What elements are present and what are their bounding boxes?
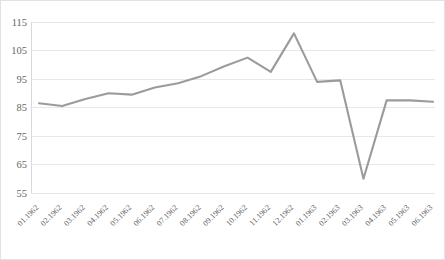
x-tick-label: 12.1962 (271, 203, 296, 228)
y-tick-label: 85 (17, 102, 28, 113)
line-chart-card: 5565758595105115 01.196202.196203.196204… (0, 0, 445, 260)
y-tick-label: 55 (17, 188, 28, 199)
x-tick-label: 11.1962 (248, 203, 273, 228)
x-tick-label: 04.1962 (85, 203, 110, 228)
x-tick-label: 06.1963 (410, 203, 435, 228)
x-tick-label: 06.1962 (132, 203, 157, 228)
x-tick-label: 09.1962 (201, 203, 226, 228)
x-tick-label: 05.1963 (386, 203, 411, 228)
y-tick-label: 75 (17, 131, 28, 142)
x-tick-label: 03.1963 (340, 203, 365, 228)
x-tick-label: 07.1962 (155, 203, 180, 228)
x-tick-label: 02.1962 (39, 203, 64, 228)
y-tick-label: 95 (17, 74, 28, 85)
series-line (39, 33, 433, 178)
x-tick-label: 08.1962 (178, 203, 203, 228)
data-series (39, 33, 433, 178)
x-tick-label: 01.1962 (16, 203, 41, 228)
y-tick-label: 115 (12, 17, 27, 28)
gridlines (31, 22, 435, 193)
plot-area: 5565758595105115 01.196202.196203.196204… (1, 1, 445, 260)
x-tick-label: 02.1963 (317, 203, 342, 228)
y-tick-label: 65 (17, 159, 28, 170)
x-tick-label: 01.1963 (294, 203, 319, 228)
x-axis-tick-labels: 01.196202.196203.196204.196205.196206.19… (16, 203, 435, 228)
x-tick-label: 10.1962 (224, 203, 249, 228)
x-tick-label: 03.1962 (62, 203, 87, 228)
x-tick-label: 05.1962 (108, 203, 133, 228)
y-axis-tick-labels: 5565758595105115 (11, 17, 27, 199)
x-tick-label: 04.1963 (363, 203, 388, 228)
chart-canvas: 5565758595105115 01.196202.196203.196204… (1, 1, 445, 260)
y-tick-label: 105 (11, 45, 27, 56)
